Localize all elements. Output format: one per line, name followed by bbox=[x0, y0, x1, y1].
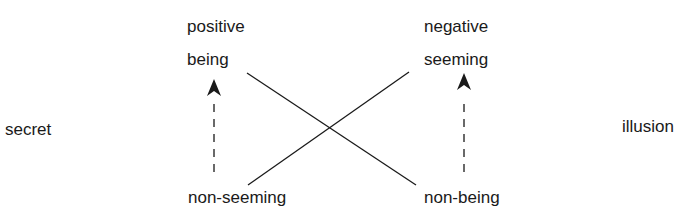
label-non-seeming: non-seeming bbox=[188, 188, 286, 208]
arrowhead-up-right-icon bbox=[457, 73, 471, 90]
label-positive: positive bbox=[187, 17, 245, 37]
label-non-being: non-being bbox=[424, 188, 500, 208]
label-being: being bbox=[187, 50, 229, 70]
label-negative: negative bbox=[424, 17, 488, 37]
arrowhead-up-left-icon bbox=[207, 79, 221, 96]
label-secret: secret bbox=[5, 120, 51, 140]
connector-lines bbox=[0, 0, 695, 221]
label-illusion: illusion bbox=[622, 117, 674, 137]
label-seeming: seeming bbox=[424, 50, 488, 70]
